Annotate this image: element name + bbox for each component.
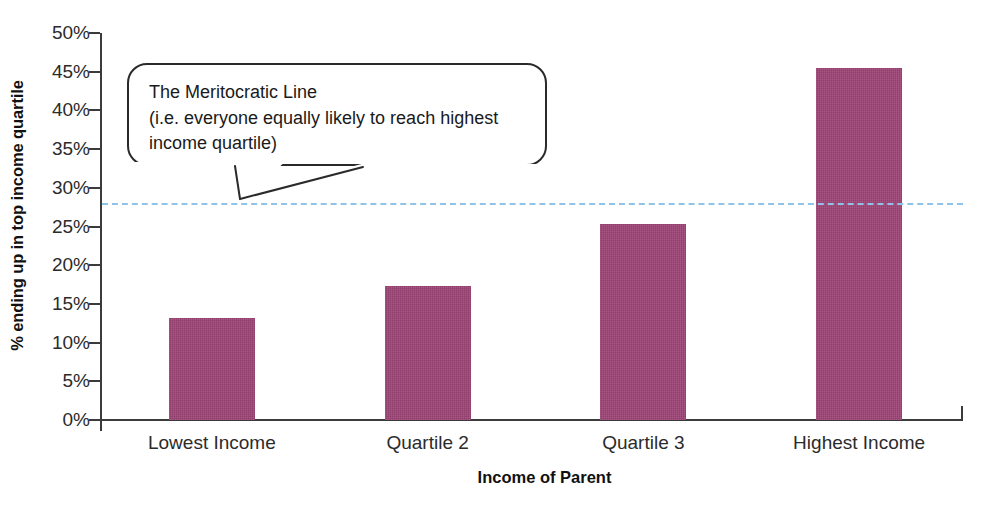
y-tick-label: 20% — [34, 254, 90, 276]
y-tick-label: 15% — [34, 293, 90, 315]
y-tick-label: 30% — [34, 177, 90, 199]
y-tick-mark — [89, 264, 100, 266]
y-tick-label: 0% — [34, 409, 90, 431]
callout-line-1: The Meritocratic Line — [149, 80, 539, 106]
bar — [169, 318, 255, 420]
y-tick-mark — [89, 32, 100, 34]
y-tick-mark — [89, 109, 100, 111]
y-tick-mark — [89, 148, 100, 150]
y-tick-mark — [89, 303, 100, 305]
callout-text: The Meritocratic Line (i.e. everyone equ… — [149, 80, 539, 157]
x-axis-title: Income of Parent — [100, 468, 989, 487]
y-axis-title-text: % ending up in top income quartile — [8, 80, 27, 351]
y-tick-label: 45% — [34, 61, 90, 83]
y-tick-mark — [89, 226, 100, 228]
bar — [385, 286, 471, 420]
y-tick-label: 5% — [34, 370, 90, 392]
y-tick-label: 50% — [34, 22, 90, 44]
bar — [816, 68, 902, 420]
y-tick-mark — [89, 419, 100, 421]
y-tick-mark — [89, 342, 100, 344]
y-tick-label: 35% — [34, 138, 90, 160]
meritocratic-line-callout: The Meritocratic Line (i.e. everyone equ… — [127, 63, 549, 168]
x-tick-label: Quartile 3 — [602, 432, 684, 454]
x-tick-label: Lowest Income — [148, 432, 276, 454]
y-tick-label: 25% — [34, 216, 90, 238]
y-axis-title: % ending up in top income quartile — [0, 0, 34, 430]
y-tick-mark — [89, 71, 100, 73]
callout-tail-icon — [127, 163, 549, 205]
callout-line-2: (i.e. everyone equally likely to reach h… — [149, 106, 539, 132]
y-tick-mark — [89, 187, 100, 189]
callout-line-3: income quartile) — [149, 131, 539, 157]
bar — [600, 224, 686, 420]
y-tick-mark — [89, 380, 100, 382]
chart-container: % ending up in top income quartile 0%5%1… — [0, 0, 989, 505]
y-tick-label: 40% — [34, 99, 90, 121]
x-tick-label: Highest Income — [793, 432, 925, 454]
x-tick-label: Quartile 2 — [386, 432, 468, 454]
y-tick-label: 10% — [34, 332, 90, 354]
y-axis-tick-labels: 0%5%10%15%20%25%30%35%40%45%50% — [34, 0, 90, 505]
